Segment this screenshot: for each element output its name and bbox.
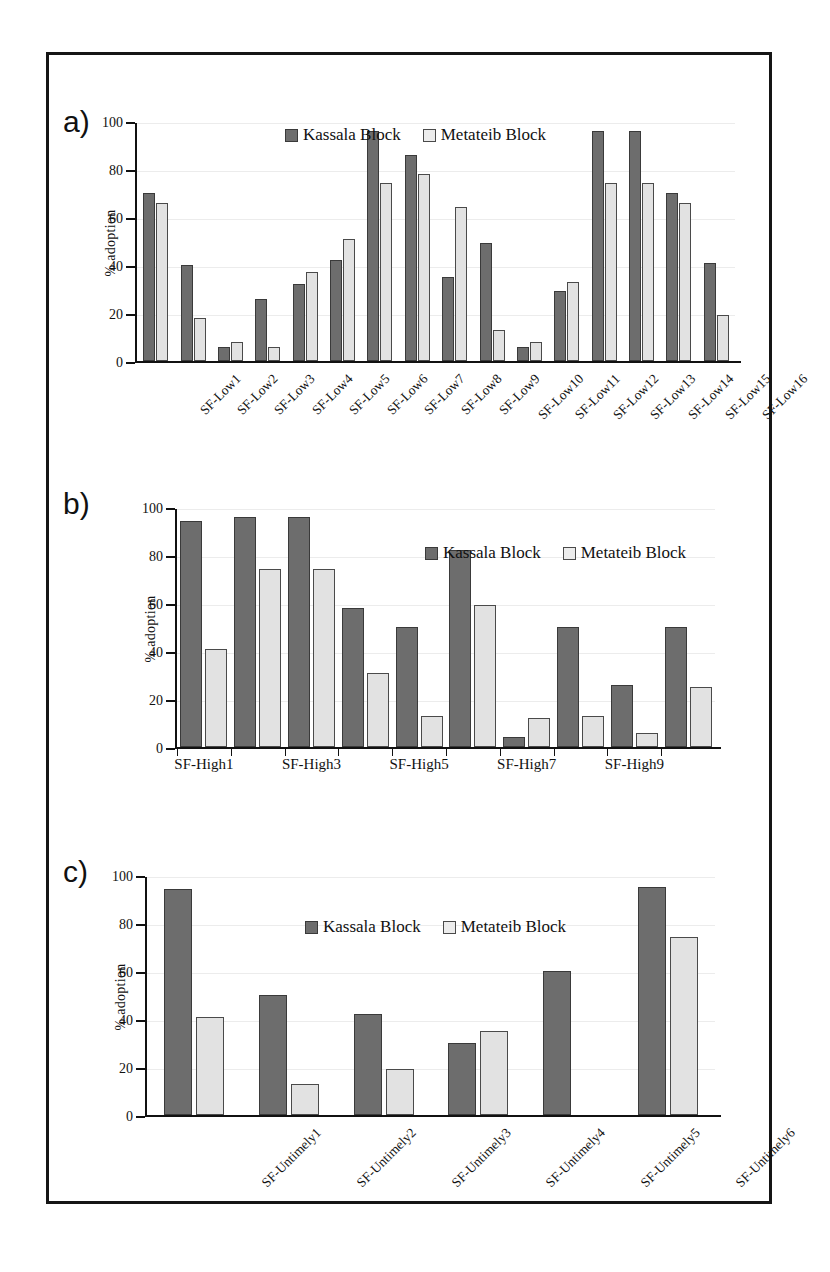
bar-kassala [449,550,471,747]
bar-kassala [367,131,379,361]
x-tick-label: SF-Low6 [384,371,431,418]
x-tick-mark [285,749,286,756]
legend-label-kassala: Kassala Block [443,543,541,563]
bar-metateib [306,272,318,361]
bar-metateib [156,203,168,361]
bar-group [231,509,285,747]
legend-item-kassala-a: Kassala Block [285,125,401,145]
bar-metateib [343,239,355,361]
y-tick-label: 80 [109,163,123,179]
y-tick-label: 40 [109,259,123,275]
bar-group [399,123,436,361]
bar-metateib [196,1017,224,1115]
y-tick-label: 80 [149,549,163,565]
bar-kassala [629,131,641,361]
bar-kassala [405,155,417,361]
bar-metateib [480,1031,508,1115]
x-tick-mark [392,749,393,756]
panel-label-b: b) [63,487,90,521]
bar-kassala [442,277,454,361]
legend-item-kassala-c: Kassala Block [305,917,421,937]
bar-group [147,877,242,1115]
bar-metateib [194,318,206,361]
bar-group [212,123,249,361]
bar-group [137,123,174,361]
y-tick-label: 80 [119,917,133,933]
bar-metateib [530,342,542,361]
x-tick-label: SF-Low5 [346,371,393,418]
bar-metateib [582,716,604,747]
bar-metateib [259,569,281,747]
x-tick-label: SF-Untimely4 [543,1125,609,1191]
bar-group [511,123,548,361]
bar-group [473,123,510,361]
bar-kassala [666,193,678,361]
bar-kassala [396,627,418,747]
y-tick-mark [136,1020,145,1022]
x-tick-label: SF-Untimely2 [354,1125,420,1191]
legend-label-metateib: Metateib Block [441,125,546,145]
bar-kassala [704,263,716,361]
y-tick-mark [126,218,135,220]
y-tick-label: 0 [126,1109,133,1125]
x-tick-label: SF-High1 [174,756,233,773]
bar-group [361,123,398,361]
bar-group [586,123,623,361]
y-tick-mark [126,170,135,172]
bar-metateib [528,718,550,747]
legend-label-metateib: Metateib Block [581,543,686,563]
bar-kassala [448,1043,476,1115]
bar-metateib [268,347,280,361]
x-tick-label: SF-High7 [497,756,556,773]
bar-kassala [557,627,579,747]
x-tick-mark [661,749,662,756]
x-tick-mark [446,749,447,756]
x-tick-layer-c: SF-Untimely1SF-Untimely2SF-Untimely3SF-U… [147,1117,715,1207]
y-tick-mark [166,508,175,510]
bar-group [324,123,361,361]
x-tick-layer-a: SF-Low1SF-Low2SF-Low3SF-Low4SF-Low5SF-Lo… [137,363,735,453]
bar-metateib [636,733,658,747]
bar-group [287,123,324,361]
y-tick-mark [136,1068,145,1070]
x-tick-mark [607,749,608,756]
y-tick-mark [126,314,135,316]
bar-kassala [638,887,666,1115]
bar-kassala [259,995,287,1115]
bar-group [526,877,621,1115]
bar-group [285,509,339,747]
legend-label-kassala: Kassala Block [303,125,401,145]
bar-kassala [288,517,310,747]
x-tick-label: SF-Untimely1 [259,1125,325,1191]
y-tick-label: 100 [102,115,123,131]
bar-metateib [690,687,712,747]
bar-group [336,877,431,1115]
bar-kassala [180,521,202,747]
y-tick-mark [166,604,175,606]
bar-kassala [611,685,633,747]
bar-kassala [354,1014,382,1115]
bar-kassala [517,347,529,361]
x-tick-mark [554,749,555,756]
bar-metateib [679,203,691,361]
bar-group [620,877,715,1115]
bar-kassala [255,299,267,361]
plot-area-a: % adoption 020406080100 Kassala Block Me… [135,123,735,363]
bar-metateib [291,1084,319,1115]
plot-area-b: % adoption 020406080100 Kassala Block Me… [175,509,715,749]
x-tick-label: SF-Untimely3 [448,1125,514,1191]
bar-group [177,509,231,747]
bar-group [431,877,526,1115]
bar-metateib [380,183,392,361]
bar-metateib [670,937,698,1115]
y-tick-mark [126,362,135,364]
bar-kassala [218,347,230,361]
bar-kassala [592,131,604,361]
y-tick-label: 60 [109,211,123,227]
x-tick-label: SF-Low3 [271,371,318,418]
x-tick-label: SF-High5 [390,756,449,773]
y-tick-mark [166,556,175,558]
legend-swatch-metateib-icon [563,547,576,560]
x-tick-layer-b: SF-High1SF-High3SF-High5SF-High7SF-High9 [177,749,715,789]
x-tick-label: SF-Low1 [197,371,244,418]
